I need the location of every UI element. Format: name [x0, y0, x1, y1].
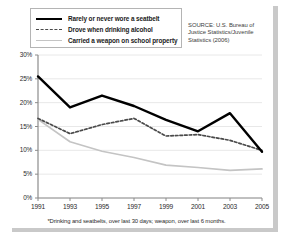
footnote: *Drinking and seatbelts, over last 30 da… [0, 218, 273, 224]
y-tick-label: 25% [10, 75, 32, 82]
x-tick-label: 1995 [87, 203, 117, 210]
x-tick-label: 1997 [119, 203, 149, 210]
x-tick-label: 2003 [215, 203, 245, 210]
series-line [38, 118, 262, 150]
x-tick-label: 1993 [55, 203, 85, 210]
legend-swatch-dashed-icon [36, 25, 62, 35]
chart-screenshot: 0%5%10%15%20%25%30% 19911993199519971999… [0, 0, 287, 241]
y-tick-label: 5% [10, 170, 32, 177]
y-tick-label: 10% [10, 146, 32, 153]
legend-item-alcohol: Drove when drinking alcohol [36, 24, 176, 35]
legend-label-seatbelt: Rarely or never wore a seatbelt [68, 14, 159, 24]
y-tick-label: 15% [10, 123, 32, 130]
legend-swatch-light-icon [36, 36, 62, 46]
x-tick-label: 2001 [183, 203, 213, 210]
legend-item-seatbelt: Rarely or never wore a seatbelt [36, 13, 176, 24]
source-note: SOURCE: U.S. Bureau of Justice Statistic… [188, 22, 270, 44]
y-tick-label: 20% [10, 99, 32, 106]
x-tick-label: 1991 [23, 203, 53, 210]
y-tick-label: 0% [10, 194, 32, 201]
legend-swatch-solid-icon [36, 14, 62, 24]
legend-label-alcohol: Drove when drinking alcohol [68, 25, 153, 35]
data-series-layer [38, 76, 262, 170]
x-tick-label: 1999 [151, 203, 181, 210]
axis-ticks [35, 55, 262, 201]
legend-label-weapon: Carried a weapon on school property [68, 36, 177, 46]
x-tick-label: 2005 [247, 203, 277, 210]
legend-item-weapon: Carried a weapon on school property [36, 35, 176, 46]
y-tick-label: 30% [10, 51, 32, 58]
chart-legend: Rarely or never wore a seatbelt Drove wh… [30, 8, 182, 48]
